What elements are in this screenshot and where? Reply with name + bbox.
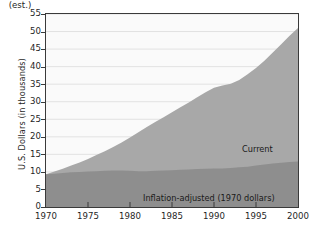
y-axis-tick-label: 20 — [15, 132, 41, 141]
x-axis-tick-label: 1990 — [194, 212, 234, 221]
series-label-inflation-adjusted: Inflation-adjusted (1970 dollars) — [143, 194, 275, 202]
y-axis-tick-label: 40 — [15, 62, 41, 71]
series-label-current: Current — [242, 145, 273, 153]
x-axis-tick-label: 1980 — [110, 212, 150, 221]
y-axis-tick-label: 0 — [15, 202, 41, 211]
y-axis-tick-label: 10 — [15, 167, 41, 176]
x-axis-tick-label: 2000 — [278, 212, 318, 221]
x-axis-tick-label: 1995 — [236, 212, 276, 221]
chart-figure: U.S. Dollars (in thousands) 051015202530… — [0, 0, 320, 247]
y-axis-tick-label: 55 — [15, 9, 41, 18]
x-axis-tick-label: 1970 — [26, 212, 66, 221]
y-axis-tick-label: 25 — [15, 115, 41, 124]
y-axis-tick-label: 45 — [15, 44, 41, 53]
x-axis-tick-label: 1975 — [68, 212, 108, 221]
y-axis-tick-label: 15 — [15, 150, 41, 159]
y-axis-tick-label: 50 — [15, 27, 41, 36]
x-axis-tick-label: 1985 — [152, 212, 192, 221]
chart-canvas — [46, 14, 298, 207]
y-axis-tick-label: 30 — [15, 97, 41, 106]
y-axis-tick-label: 35 — [15, 80, 41, 89]
plot-area: Current Inflation-adjusted (1970 dollars… — [45, 13, 299, 208]
y-axis-tick-label: 5 — [15, 185, 41, 194]
